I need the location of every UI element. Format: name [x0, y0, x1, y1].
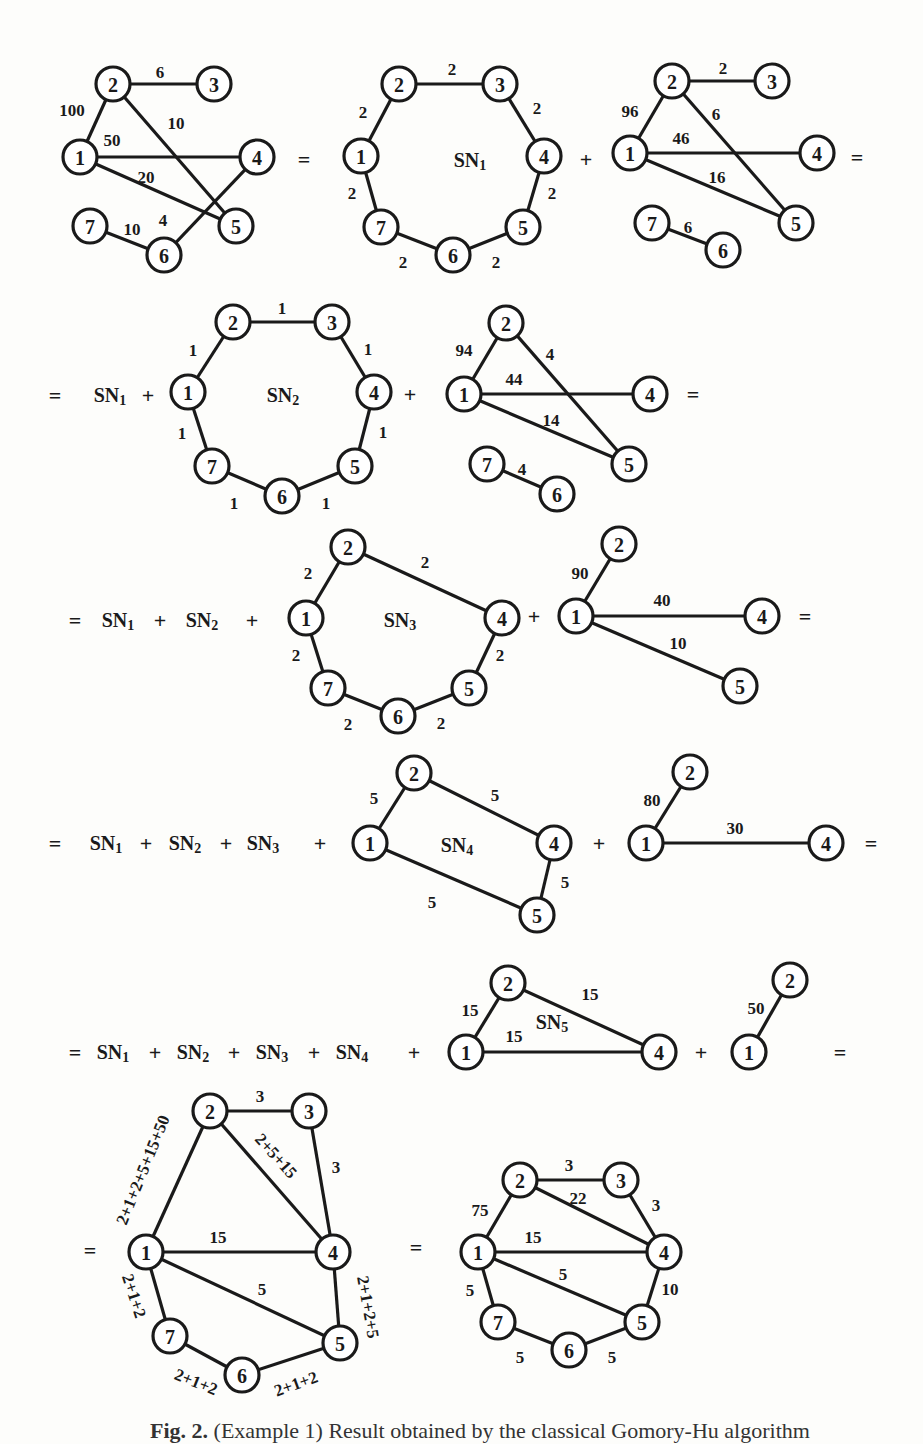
- node-1: 1: [129, 1235, 163, 1269]
- edge-weight-label: 2+1+2: [272, 1367, 321, 1400]
- edge-weight-label: 15: [582, 985, 599, 1004]
- equals-sign: =: [49, 831, 62, 856]
- svg-text:1: 1: [141, 1242, 151, 1264]
- node-5: 5: [625, 1305, 659, 1339]
- equals-sign: =: [834, 1040, 847, 1065]
- edge-weight-label: 16: [709, 168, 726, 187]
- plus-sign: +: [404, 382, 417, 407]
- sn-term-label: SN2: [186, 609, 219, 633]
- edge-weight-label: 3: [565, 1156, 574, 1175]
- subnetwork-label: SN4: [441, 834, 474, 858]
- node-2: 2: [602, 527, 636, 561]
- edge-weight-label: 50: [748, 999, 765, 1018]
- svg-text:7: 7: [647, 213, 657, 235]
- sn-term-label: SN2: [177, 1041, 210, 1065]
- node-1: 1: [353, 826, 387, 860]
- node-2: 2: [96, 67, 130, 101]
- edge-weight-label: 50: [104, 131, 121, 150]
- edge-weight-label: 75: [472, 1201, 489, 1220]
- node-3: 3: [755, 64, 789, 98]
- edge-weight-label: 5: [559, 1265, 568, 1284]
- node-6: 6: [265, 479, 299, 513]
- equals-sign: =: [851, 145, 864, 170]
- edge-weight-label: 6: [712, 105, 721, 124]
- node-5: 5: [452, 671, 486, 705]
- node-2: 2: [193, 1094, 227, 1128]
- edge-1-5: [576, 616, 740, 686]
- node-7: 7: [311, 671, 345, 705]
- svg-text:4: 4: [497, 608, 507, 630]
- equals-sign: =: [865, 831, 878, 856]
- node-2: 2: [331, 530, 365, 564]
- node-4: 4: [357, 375, 391, 409]
- svg-text:1: 1: [75, 147, 85, 169]
- equals-sign: =: [69, 608, 82, 633]
- edge-weight-label: 20: [138, 168, 155, 187]
- svg-text:1: 1: [301, 608, 311, 630]
- row4: =SN1+SN2+SN3+55551245SN48030124+=: [49, 755, 878, 932]
- node-7: 7: [470, 447, 504, 481]
- svg-text:5: 5: [518, 217, 528, 239]
- row2: =SN1+11111111234567SN294444144124567+=: [49, 299, 700, 514]
- edge-weight-label: 1: [230, 494, 239, 513]
- node-1: 1: [461, 1235, 495, 1269]
- node-5: 5: [219, 209, 253, 243]
- svg-text:1: 1: [459, 384, 469, 406]
- node-3: 3: [315, 305, 349, 339]
- equals-sign: =: [298, 147, 311, 172]
- svg-text:3: 3: [495, 74, 505, 96]
- svg-text:7: 7: [207, 456, 217, 478]
- edge-2-4: [210, 1111, 333, 1252]
- equals-sign: =: [687, 382, 700, 407]
- svg-text:5: 5: [350, 456, 360, 478]
- node-1: 1: [732, 1035, 766, 1069]
- edge-weight-label: 44: [506, 370, 524, 389]
- original-graph: 10061050204101234567: [59, 63, 274, 273]
- svg-text:3: 3: [209, 74, 219, 96]
- svg-text:2: 2: [515, 1170, 525, 1192]
- edge-weight-label: 3: [332, 1158, 341, 1177]
- edge-weight-label: 5: [466, 1281, 475, 1300]
- edge-weight-label: 10: [662, 1280, 679, 1299]
- plus-sign: +: [228, 1040, 241, 1065]
- node-3: 3: [292, 1094, 326, 1128]
- edge-2-4: [414, 773, 554, 843]
- node-4: 4: [633, 377, 667, 411]
- row5: =SN1+SN2+SN3+SN4+151515124SN55012+=: [69, 963, 847, 1069]
- edge-weight-label: 1: [278, 299, 287, 318]
- svg-text:2: 2: [667, 71, 677, 93]
- sn-term-label: SN2: [169, 832, 202, 856]
- svg-text:2: 2: [228, 312, 238, 334]
- edge-weight-label: 1: [322, 494, 331, 513]
- node-5: 5: [506, 210, 540, 244]
- node-7: 7: [481, 1305, 515, 1339]
- row6: =2+1+2+5+15+5032+5+1531552+1+2+52+1+22+1…: [84, 1087, 681, 1401]
- sn-term-label: SN3: [256, 1041, 289, 1065]
- node-3: 3: [604, 1163, 638, 1197]
- node-2: 2: [216, 305, 250, 339]
- edge-weight-label: 2+5+15: [251, 1130, 301, 1182]
- node-7: 7: [153, 1319, 187, 1353]
- svg-text:7: 7: [85, 216, 95, 238]
- edge-weight-label: 1: [178, 424, 187, 443]
- sn3-graph: 222222124567SN3: [289, 530, 519, 734]
- edge-weight-label: 2: [437, 714, 446, 733]
- node-3: 3: [197, 67, 231, 101]
- svg-text:2: 2: [614, 534, 624, 556]
- node-2: 2: [489, 306, 523, 340]
- svg-text:5: 5: [735, 676, 745, 698]
- node-5: 5: [323, 1326, 357, 1360]
- node-1: 1: [629, 826, 663, 860]
- svg-text:2: 2: [409, 763, 419, 785]
- edge-weight-label: 5: [370, 789, 379, 808]
- svg-text:4: 4: [821, 833, 831, 855]
- edge-weight-label: 4: [546, 345, 555, 364]
- node-2: 2: [673, 755, 707, 789]
- node-6: 6: [381, 699, 415, 733]
- svg-text:2: 2: [685, 762, 695, 784]
- svg-text:4: 4: [654, 1042, 664, 1064]
- svg-text:4: 4: [369, 382, 379, 404]
- edge-weight-label: 90: [572, 564, 589, 583]
- svg-text:6: 6: [552, 484, 562, 506]
- subnetwork-label: SN5: [536, 1011, 569, 1035]
